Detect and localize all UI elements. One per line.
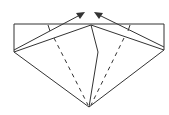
left-arrowhead-icon (76, 12, 85, 19)
left-valley-fold (54, 38, 88, 105)
right-valley-fold (91, 38, 124, 105)
left-flap-tick (48, 25, 50, 31)
valley-folds (54, 38, 124, 105)
right-diagonal-to-apex (89, 50, 164, 107)
origami-diagram (0, 0, 169, 115)
left-diagonal-to-apex (14, 52, 89, 107)
right-arrowhead-icon (94, 12, 103, 19)
center-crease (89, 25, 98, 107)
